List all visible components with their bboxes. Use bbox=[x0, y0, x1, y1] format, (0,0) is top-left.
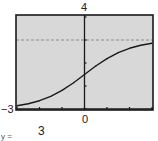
data-point bbox=[73, 82, 74, 83]
data-point bbox=[95, 65, 96, 66]
data-point bbox=[129, 48, 130, 49]
caption-prefix: y = bbox=[1, 131, 12, 141]
data-point bbox=[39, 100, 40, 101]
data-point bbox=[50, 96, 51, 97]
x-zero-tick-label: 0 bbox=[82, 114, 88, 125]
data-point bbox=[84, 74, 85, 75]
caption-value: 3 bbox=[38, 126, 45, 137]
data-point bbox=[140, 45, 141, 46]
data-point bbox=[118, 52, 119, 53]
y-max-tick-label: 4 bbox=[81, 2, 87, 13]
data-point bbox=[106, 58, 107, 59]
x-min-tick-label: −3 bbox=[1, 104, 14, 115]
graph-canvas bbox=[0, 0, 158, 141]
data-point bbox=[28, 103, 29, 104]
data-point bbox=[61, 90, 62, 91]
